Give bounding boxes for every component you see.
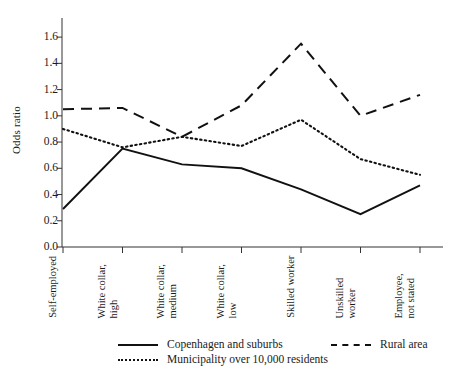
legend-label-municipality: Municipality over 10,000 residents xyxy=(167,353,328,365)
y-tick-label: 0.0 xyxy=(28,241,58,253)
legend-key-dashed-line-icon xyxy=(331,339,371,349)
chart-legend: Copenhagen and suburbs Rural area Munici… xyxy=(0,336,459,370)
legend-label-rural: Rural area xyxy=(380,338,428,350)
x-tick-label: Self-employed xyxy=(47,256,59,318)
x-tick-label: Skilled worker xyxy=(285,256,297,318)
x-tick-label: Employee,not stated xyxy=(393,273,417,318)
y-tick-label: 1.6 xyxy=(28,31,58,43)
y-tick-label: 1.4 xyxy=(28,58,58,70)
series-line-2 xyxy=(63,120,420,175)
x-tick-label: Unskilledworker xyxy=(333,277,357,318)
y-tick-label: 1.0 xyxy=(28,110,58,122)
series-line-1 xyxy=(63,44,420,137)
x-tick-label: White collar,low xyxy=(214,264,238,318)
legend-label-copenhagen: Copenhagen and suburbs xyxy=(167,338,283,350)
y-tick-label: 0.8 xyxy=(28,136,58,148)
legend-item-rural: Rural area xyxy=(331,338,428,350)
y-tick-label: 0.6 xyxy=(28,163,58,175)
series-line-0 xyxy=(63,149,420,215)
x-tick-label: White collar,high xyxy=(95,264,119,318)
chart-axes xyxy=(57,18,443,253)
y-tick-label: 1.2 xyxy=(28,84,58,96)
legend-item-municipality: Municipality over 10,000 residents xyxy=(118,353,328,365)
legend-key-dotted-line-icon xyxy=(118,354,158,364)
legend-item-copenhagen: Copenhagen and suburbs xyxy=(118,338,283,350)
y-tick-label: 0.4 xyxy=(28,189,58,201)
legend-key-solid-line-icon xyxy=(118,339,158,349)
y-axis-label-text: Odds ratio xyxy=(10,106,22,154)
x-tick-label: White collar,medium xyxy=(155,264,179,318)
y-tick-label: 0.2 xyxy=(28,215,58,227)
odds-ratio-line-chart: Odds ratio 0.00.20.40.60.81.01.21.41.6 S… xyxy=(0,0,459,373)
